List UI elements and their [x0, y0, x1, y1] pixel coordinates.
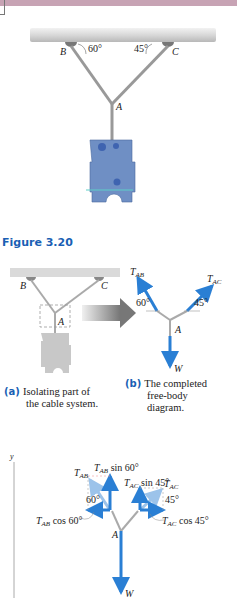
- label-b: B: [60, 46, 66, 57]
- label-tac-sin: TAC sin 45°: [124, 477, 169, 490]
- transition-arrow-body: [82, 305, 120, 321]
- label-a-a: A: [57, 316, 65, 327]
- panel-b-diagram: TAB TAC 60° 45° A W: [130, 266, 222, 374]
- label-a: A: [115, 101, 123, 112]
- label-tac-cos: TAC cos 45°: [162, 515, 209, 528]
- load-silhouette: [41, 333, 71, 373]
- angle-60: 60°: [88, 43, 102, 54]
- panel-a-diagram: B C A: [10, 268, 136, 373]
- angle-60-b: 60°: [136, 297, 150, 308]
- label-tac: TAC: [207, 273, 222, 286]
- angle-45-b: 45°: [194, 297, 208, 308]
- caption-a-tag: (a): [4, 386, 20, 397]
- caption-b-tag: (b): [125, 378, 141, 389]
- cable-ab: [71, 46, 112, 104]
- label-tab-c: TAB: [74, 467, 89, 480]
- y-axis-label: y: [10, 452, 14, 461]
- caption-a: (a)Isolating part of the cable system.: [4, 386, 114, 410]
- label-a-c: A: [111, 529, 119, 540]
- caption-a-line1: Isolating part of: [23, 386, 90, 397]
- label-b-a: B: [20, 280, 26, 291]
- label-tab-sin: TAB sin 60°: [94, 462, 139, 475]
- ceiling-beam: [30, 28, 216, 42]
- label-tab: TAB: [130, 266, 145, 279]
- label-w-b: W: [174, 363, 184, 374]
- cable-ac: [112, 46, 168, 104]
- caption-a-line2: the cable system.: [4, 398, 98, 409]
- top-diagram: B C A 60° 45°: [30, 28, 216, 202]
- components-diagram: TAB TAB sin 60° TAC sin 45° TAC 60° 45° …: [14, 462, 209, 598]
- label-w-c: W: [125, 588, 135, 598]
- caption-b: (b)The completed free-body diagram.: [125, 378, 235, 414]
- figure-canvas: B C A 60° 45° B C A TAB: [0, 0, 237, 598]
- caption-b-line2: free-body: [125, 390, 188, 401]
- label-a-b: A: [174, 324, 182, 335]
- label-c: C: [172, 46, 179, 57]
- angle-45-c: 45°: [165, 494, 179, 505]
- label-tac-c: TAC: [164, 478, 179, 491]
- caption-b-line3: diagram.: [125, 402, 184, 413]
- figure-number: Figure 3.20: [2, 236, 73, 249]
- caption-b-line1: The completed: [144, 378, 207, 389]
- label-tab-cos: TAB cos 60°: [36, 515, 82, 528]
- hanging-plate: [90, 140, 135, 202]
- tac-resultant: [140, 490, 161, 510]
- angle-60-c: 60°: [86, 494, 100, 505]
- label-c-a: C: [101, 280, 108, 291]
- ceiling-beam-a: [10, 268, 120, 277]
- transition-arrow-head: [120, 298, 136, 328]
- angle-45: 45°: [134, 43, 148, 54]
